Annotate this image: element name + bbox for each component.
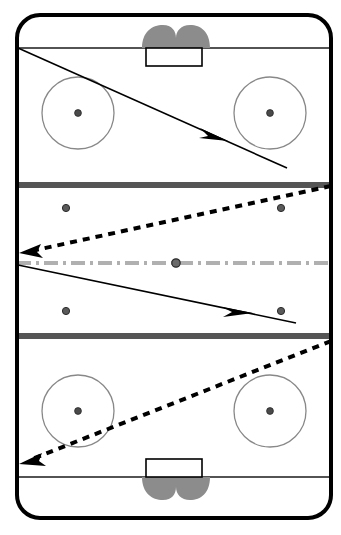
faceoff-dot-bottom-right — [267, 408, 274, 415]
faceoff-dot-top-right — [267, 110, 274, 117]
hockey-rink-diagram — [0, 0, 341, 535]
faceoff-dot-top-left — [75, 110, 82, 117]
faceoff-dot-neutral-top-right — [277, 204, 284, 211]
faceoff-dot-center — [172, 259, 180, 267]
goal-net-bottom — [146, 459, 202, 477]
faceoff-dot-neutral-bottom-left — [62, 307, 69, 314]
goal-net-top — [146, 48, 202, 66]
faceoff-dot-neutral-bottom-right — [277, 307, 284, 314]
faceoff-dot-bottom-left — [75, 408, 82, 415]
rink-canvas — [0, 0, 341, 535]
faceoff-dot-neutral-top-left — [62, 204, 69, 211]
